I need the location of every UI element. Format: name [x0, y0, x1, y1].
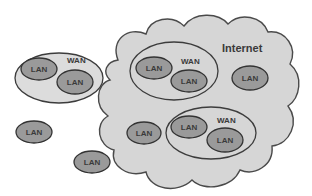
internet-wan-upper: WAN LAN LAN	[130, 42, 218, 100]
wan-label: WAN	[181, 57, 200, 66]
cloud-shape	[98, 15, 298, 188]
lan-node: LAN	[171, 116, 207, 138]
lan-label: LAN	[136, 129, 153, 138]
lan-label: LAN	[181, 123, 198, 132]
internet-wan-lower: WAN LAN LAN	[166, 107, 256, 159]
lan-node: LAN	[171, 70, 207, 92]
network-diagram: Internet WAN LAN LAN LAN LAN WAN LAN LAN	[0, 0, 312, 196]
wan-label: WAN	[217, 116, 236, 125]
standalone-wan: WAN LAN LAN	[15, 53, 103, 103]
lan-label: LAN	[67, 78, 84, 87]
lan-node: LAN	[232, 66, 268, 90]
lan-node: LAN	[21, 58, 57, 80]
lan-label: LAN	[26, 128, 43, 137]
internet-label: Internet	[222, 42, 263, 54]
internet-cloud: Internet	[98, 15, 298, 188]
lan-label: LAN	[217, 136, 234, 145]
lan-label: LAN	[242, 74, 259, 83]
lan-node: LAN	[16, 121, 52, 143]
lan-label: LAN	[84, 158, 101, 167]
lan-node: LAN	[207, 128, 243, 152]
lan-node: LAN	[136, 57, 172, 79]
lan-label: LAN	[31, 65, 48, 74]
lan-node: LAN	[127, 122, 161, 144]
wan-label: WAN	[67, 56, 86, 65]
lan-label: LAN	[181, 77, 198, 86]
lan-node: LAN	[74, 151, 110, 173]
lan-label: LAN	[146, 64, 163, 73]
lan-node: LAN	[57, 70, 93, 94]
